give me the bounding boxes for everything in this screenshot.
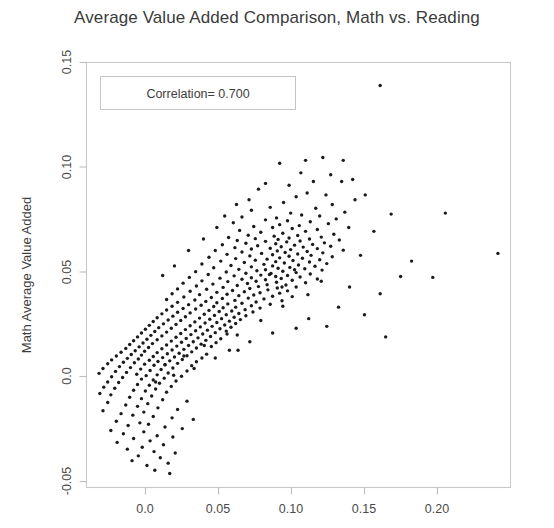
data-point (225, 332, 228, 335)
data-point (202, 237, 205, 240)
data-point (188, 324, 191, 327)
data-point (275, 281, 278, 284)
data-point (264, 278, 267, 281)
data-point (136, 335, 139, 338)
data-point (233, 246, 236, 249)
data-point (142, 410, 145, 413)
data-point (204, 300, 207, 303)
data-point (275, 216, 278, 219)
data-point (278, 162, 281, 165)
y-tick-label-2: 0.05 (60, 260, 74, 284)
data-point (247, 233, 250, 236)
data-point (236, 333, 239, 336)
data-point (195, 360, 198, 363)
data-point (221, 297, 224, 300)
data-point (130, 353, 133, 356)
x-tick-label-4: 0.20 (425, 502, 449, 516)
data-point (364, 193, 367, 196)
data-point (281, 304, 284, 307)
data-point (170, 339, 173, 342)
data-point (287, 184, 290, 187)
data-point (285, 240, 288, 243)
data-point (227, 236, 230, 239)
data-points-layer (97, 84, 499, 475)
data-point (194, 270, 197, 273)
data-point (130, 459, 133, 462)
data-point (372, 230, 375, 233)
data-point (291, 279, 294, 282)
data-point (236, 284, 239, 287)
data-point (281, 232, 284, 235)
data-point (305, 250, 308, 253)
data-point (203, 313, 206, 316)
data-point (142, 430, 145, 433)
data-point (250, 304, 253, 307)
data-point (140, 353, 143, 356)
data-point (163, 363, 166, 366)
data-point (314, 207, 317, 210)
data-point (192, 418, 195, 421)
data-point (212, 266, 215, 269)
data-point (215, 291, 218, 294)
data-point (101, 409, 104, 412)
data-point (148, 324, 151, 327)
data-point (144, 374, 147, 377)
plot-canvas: 0.0 0.05 0.10 0.15 0.20 -0.05 0.0 0.05 0… (0, 0, 554, 528)
data-point (225, 270, 228, 273)
data-point (215, 301, 218, 304)
data-point (250, 247, 253, 250)
data-point (294, 271, 297, 274)
data-point (316, 228, 319, 231)
data-point (291, 259, 294, 262)
data-point (257, 187, 260, 190)
data-point (327, 222, 330, 225)
data-point (268, 273, 271, 276)
data-point (311, 243, 314, 246)
data-point (223, 323, 226, 326)
y-tick-label-1: 0.0 (60, 367, 74, 384)
data-point (185, 337, 188, 340)
data-point (278, 223, 281, 226)
data-point (228, 349, 231, 352)
y-axis-title: Math Average Value Added (19, 197, 34, 353)
data-point (318, 258, 321, 261)
data-point (132, 389, 135, 392)
data-point (305, 191, 308, 194)
data-point (244, 242, 247, 245)
data-point (309, 272, 312, 275)
data-point (163, 376, 166, 379)
data-point (348, 285, 351, 288)
data-point (278, 291, 281, 294)
data-point (144, 389, 147, 392)
data-point (148, 369, 151, 372)
data-point (262, 297, 265, 300)
data-point (119, 351, 122, 354)
data-point (199, 304, 202, 307)
data-point (286, 289, 289, 292)
data-point (250, 276, 253, 279)
data-point (201, 332, 204, 335)
data-point (280, 299, 283, 302)
data-point (171, 314, 174, 317)
data-point (158, 382, 161, 385)
data-point (302, 245, 305, 248)
data-point (283, 261, 286, 264)
data-point (194, 307, 197, 310)
data-point (175, 344, 178, 347)
data-point (340, 180, 343, 183)
data-point (320, 268, 323, 271)
data-point (124, 403, 127, 406)
data-point (170, 327, 173, 330)
data-point (359, 254, 362, 257)
data-point (265, 257, 268, 260)
data-point (176, 301, 179, 304)
data-point (259, 273, 262, 276)
data-point (177, 351, 180, 354)
data-point (291, 227, 294, 230)
data-point (325, 325, 328, 328)
x-tick-label-2: 0.10 (279, 502, 303, 516)
data-point (313, 265, 316, 268)
x-tick-label-0: 0.0 (136, 502, 153, 516)
data-point (207, 256, 210, 259)
data-point (304, 281, 307, 284)
